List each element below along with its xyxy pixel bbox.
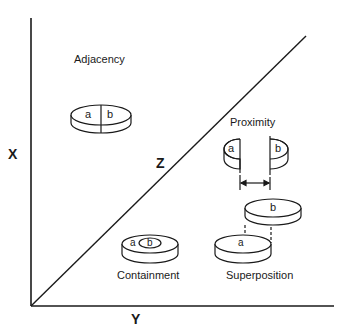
adjacency-title: Adjacency [74, 53, 125, 65]
superposition-label-a: a [238, 237, 244, 248]
z-axis-line [31, 36, 306, 306]
containment-label-b: b [147, 237, 153, 248]
adjacency-label-b: b [107, 108, 113, 120]
containment-title: Containment [117, 269, 179, 281]
containment-label-a: a [130, 237, 136, 248]
y-axis-label: Y [131, 311, 140, 327]
superposition-title: Superposition [226, 269, 293, 281]
proximity-distance-arrow [240, 175, 270, 190]
adjacency-disk [71, 105, 131, 133]
diagram-canvas [0, 0, 340, 335]
z-axis-label: Z [156, 155, 165, 171]
proximity-label-a: a [228, 142, 234, 154]
proximity-title: Proximity [230, 116, 275, 128]
proximity-label-b: b [275, 142, 281, 154]
superposition-label-b: b [270, 201, 276, 213]
adjacency-label-a: a [85, 108, 91, 120]
x-axis-label: X [8, 146, 17, 162]
